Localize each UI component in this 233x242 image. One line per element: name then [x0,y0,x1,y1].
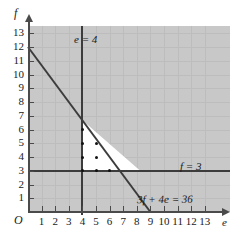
y-axis-tick-label: 1 [0,192,24,203]
grid-line-horizontal [28,33,230,34]
x-axis-tick [137,206,138,211]
y-axis-tick [30,33,34,34]
y-axis-tick [30,185,34,186]
y-axis-tick [30,130,34,131]
grid-line-vertical [178,26,179,212]
grid-line-vertical [205,26,206,212]
x-axis-tick [191,206,192,211]
plot-area [28,26,230,212]
y-axis-tick [30,88,34,89]
x-axis-tick-label: 2 [48,216,62,227]
y-axis-tick [30,198,34,199]
label-constraint-horizontal: f = 3 [180,160,201,172]
grid-line-horizontal [28,61,230,62]
x-axis-tick-label: 6 [103,216,117,227]
linear-programming-graph: 1234567891011121312345678910111213 f e O… [0,0,233,242]
x-axis-tick-label: 3 [62,216,76,227]
label-constraint-diagonal: 3f + 4e = 36 [137,193,193,205]
x-axis-tick-label: 12 [184,216,198,227]
y-axis-tick-label: 12 [0,41,24,52]
grid-line-horizontal [28,130,230,131]
grid-line-horizontal [28,185,230,186]
x-axis-tick [42,206,43,211]
y-axis-tick-label: 2 [0,179,24,190]
grid-line-vertical [123,26,124,212]
x-axis-tick-label: 5 [89,216,103,227]
y-axis-tick-label: 7 [0,110,24,121]
y-axis-tick-label: 10 [0,69,24,80]
x-axis-tick-label: 7 [116,216,130,227]
y-axis-arrow-icon [25,14,33,22]
x-axis-tick [178,206,179,211]
grid-line-horizontal [28,198,230,199]
grid-line-vertical [69,26,70,212]
y-axis-tick [30,116,34,117]
x-axis-tick [69,206,70,211]
x-axis-arrow-icon [222,208,230,216]
y-axis-tick-label: 6 [0,124,24,135]
grid-line-horizontal [28,47,230,48]
y-axis-tick-label: 11 [0,55,24,66]
x-axis-tick-label: 1 [35,216,49,227]
grid-line-horizontal [28,88,230,89]
grid-line-horizontal [28,75,230,76]
grid-line-vertical [137,26,138,212]
y-axis [28,22,30,212]
x-axis-tick [110,206,111,211]
grid-line-horizontal [28,102,230,103]
x-axis-label: e [222,216,227,228]
label-constraint-vertical: e = 4 [74,33,97,45]
grid-line-vertical [164,26,165,212]
x-axis-tick [55,206,56,211]
grid-line-horizontal [28,116,230,117]
grid-line-horizontal [28,143,230,144]
lattice-point [95,169,98,172]
y-axis-tick-label: 8 [0,96,24,107]
x-axis-tick-label: 8 [130,216,144,227]
y-axis-tick [30,47,34,48]
x-axis-tick-label: 13 [198,216,212,227]
y-axis-tick [30,143,34,144]
y-axis-tick [30,75,34,76]
x-axis-tick-label: 11 [171,216,185,227]
y-axis-tick [30,171,34,172]
lattice-point [81,156,84,159]
y-axis-tick-label: 4 [0,151,24,162]
y-axis-tick [30,157,34,158]
x-axis-tick-label: 4 [75,216,89,227]
x-axis-tick-label: 10 [157,216,171,227]
lattice-point [81,128,84,131]
y-axis-label: f [14,6,17,21]
grid-line-horizontal [28,157,230,158]
lattice-point [95,142,98,145]
x-axis-tick [82,206,83,211]
lattice-point [81,142,84,145]
x-axis-tick [205,206,206,211]
x-axis [28,211,226,213]
grid-line-vertical [96,26,97,212]
y-axis-tick [30,61,34,62]
x-axis-tick-label: 9 [143,216,157,227]
x-axis-tick [96,206,97,211]
y-axis-tick-label: 9 [0,82,24,93]
origin-label: O [14,213,23,228]
constraint-line-vertical [81,26,83,215]
y-axis-tick-label: 3 [0,165,24,176]
y-axis-tick-label: 5 [0,137,24,148]
y-axis-tick-label: 13 [0,27,24,38]
x-axis-tick [150,206,151,211]
grid-line-vertical [150,26,151,212]
y-axis-tick [30,102,34,103]
x-axis-tick [123,206,124,211]
x-axis-tick [164,206,165,211]
grid-line-vertical [191,26,192,212]
grid-line-vertical [110,26,111,212]
lattice-point [95,156,98,159]
